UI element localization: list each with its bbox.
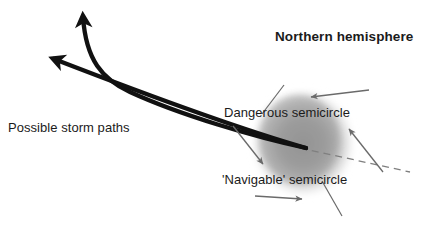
storm-center-marker	[304, 146, 308, 150]
label-possible-storm-paths: Possible storm paths	[8, 120, 130, 135]
label-northern-hemisphere: Northern hemisphere	[275, 29, 413, 44]
label-navigable-semicircle: 'Navigable' semicircle	[222, 172, 347, 187]
storm-semicircles-diagram: Northern hemisphere Dangerous semicircle…	[0, 0, 445, 229]
label-dangerous-semicircle: Dangerous semicircle	[224, 105, 350, 120]
